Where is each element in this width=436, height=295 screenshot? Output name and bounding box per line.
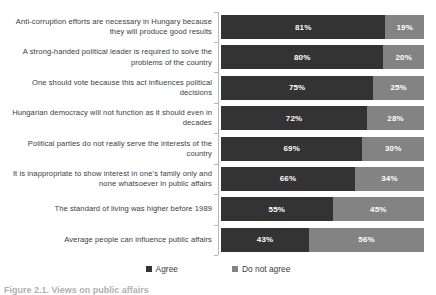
bar-rows: Anti-corruption efforts are necessary in… — [0, 12, 436, 255]
bar-segment-agree: 75% — [221, 76, 373, 100]
plot-area: Anti-corruption efforts are necessary in… — [0, 0, 436, 258]
category-label: Political parties do not really serve th… — [6, 138, 212, 159]
bar-segment-agree: 69% — [221, 137, 362, 161]
axis-tick — [214, 255, 218, 256]
category-label: Hungarian democracy will not function as… — [6, 108, 212, 129]
bar-segment-do-not-agree: 28% — [367, 106, 424, 130]
stacked-bar: 43%56% — [221, 228, 424, 252]
category-label: Anti-corruption efforts are necessary in… — [6, 17, 212, 38]
figure-caption-text: Figure 2.1. Views on public affairs — [4, 286, 149, 295]
figure-caption-clipped: Figure 2.1. Views on public affairs — [0, 286, 436, 295]
legend-label: Agree — [156, 264, 178, 274]
bar-row: One should vote because this act influen… — [0, 73, 436, 103]
bar-segment-agree: 55% — [221, 197, 333, 221]
bar-segment-do-not-agree: 34% — [355, 167, 424, 191]
legend-swatch-icon — [146, 266, 152, 272]
bar-row: Average people can influence public affa… — [0, 225, 436, 255]
bar-row: The standard of living was higher before… — [0, 194, 436, 224]
bar-row: It is inappropriate to show interest in … — [0, 164, 436, 194]
legend-item-do-not-agree[interactable]: Do not agree — [232, 264, 290, 274]
stacked-bar: 75%25% — [221, 76, 424, 100]
category-label: It is inappropriate to show interest in … — [6, 169, 212, 190]
category-label: The standard of living was higher before… — [6, 204, 212, 214]
stacked-bar: 69%30% — [221, 137, 424, 161]
category-label: Average people can influence public affa… — [6, 234, 212, 244]
bar-segment-do-not-agree: 19% — [385, 15, 424, 39]
bar-segment-do-not-agree: 56% — [309, 228, 424, 252]
bar-segment-agree: 72% — [221, 106, 367, 130]
bar-row: Political parties do not really serve th… — [0, 134, 436, 164]
category-label: A strong-handed political leader is requ… — [6, 47, 212, 68]
stacked-bar-chart-figure: Anti-corruption efforts are necessary in… — [0, 0, 436, 295]
legend-label: Do not agree — [242, 264, 290, 274]
legend-swatch-icon — [232, 266, 238, 272]
bar-segment-agree: 66% — [221, 167, 355, 191]
legend-item-agree[interactable]: Agree — [146, 264, 178, 274]
bar-row: Anti-corruption efforts are necessary in… — [0, 12, 436, 42]
bar-segment-do-not-agree: 45% — [333, 197, 424, 221]
bar-segment-agree: 81% — [221, 15, 385, 39]
bar-segment-do-not-agree: 30% — [362, 137, 424, 161]
stacked-bar: 72%28% — [221, 106, 424, 130]
stacked-bar: 66%34% — [221, 167, 424, 191]
bar-row: A strong-handed political leader is requ… — [0, 42, 436, 72]
stacked-bar: 81%19% — [221, 15, 424, 39]
bar-row: Hungarian democracy will not function as… — [0, 103, 436, 133]
stacked-bar: 80%20% — [221, 45, 424, 69]
bar-segment-agree: 43% — [221, 228, 309, 252]
category-label: One should vote because this act influen… — [6, 77, 212, 98]
chart-legend: Agree Do not agree — [0, 261, 436, 277]
bar-segment-agree: 80% — [221, 45, 383, 69]
bar-segment-do-not-agree: 20% — [383, 45, 424, 69]
bar-segment-do-not-agree: 25% — [373, 76, 424, 100]
stacked-bar: 55%45% — [221, 197, 424, 221]
